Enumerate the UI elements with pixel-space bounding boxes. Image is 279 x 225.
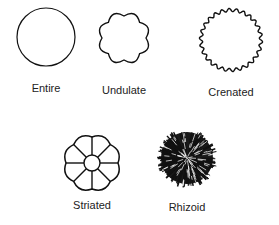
label-entire: Entire [32, 82, 61, 94]
label-undulate: Undulate [102, 84, 146, 96]
label-crenated: Crenated [208, 86, 253, 98]
striated-shape [65, 136, 119, 190]
entire-shape [17, 8, 75, 66]
label-striated: Striated [73, 199, 111, 211]
colony-margin-diagram [0, 0, 279, 225]
rhizoid-shape [157, 132, 216, 187]
label-rhizoid: Rhizoid [169, 201, 206, 213]
crenated-shape [199, 8, 262, 71]
undulate-shape [100, 14, 149, 63]
